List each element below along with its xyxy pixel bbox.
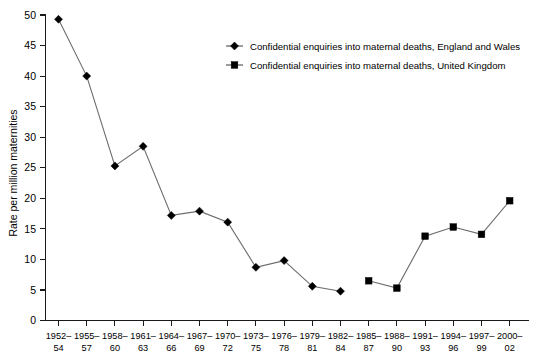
chart-legend: Confidential enquiries into maternal dea… — [226, 41, 520, 71]
y-axis-title: Rate per million maternities — [7, 109, 19, 236]
data-point-diamond — [196, 207, 204, 215]
x-tick-label: 1964–66 — [159, 331, 185, 353]
legend-label: Confidential enquiries into maternal dea… — [250, 60, 505, 71]
legend-label: Confidential enquiries into maternal dea… — [250, 41, 520, 52]
x-tick-label: 1985–87 — [356, 331, 382, 353]
x-tick-label: 1967–69 — [187, 331, 213, 353]
chart-container: Rate per million maternities 05101520253… — [0, 0, 550, 363]
data-series-layer — [55, 15, 514, 295]
legend-entry[interactable]: Confidential enquiries into maternal dea… — [226, 60, 505, 71]
series-1 — [55, 15, 345, 295]
line-chart: Rate per million maternities 05101520253… — [0, 0, 550, 363]
y-tick-label: 15 — [24, 223, 36, 235]
y-tick-label: 40 — [24, 70, 36, 82]
x-tick-label: 1982–84 — [328, 331, 354, 353]
x-tick-label: 1979–81 — [300, 331, 326, 353]
data-point-square — [506, 197, 513, 204]
x-tick-label: 1994–96 — [441, 331, 467, 353]
x-tick-label: 1961–63 — [130, 331, 156, 353]
x-tick-label: 1955–57 — [74, 331, 100, 353]
y-tick-label: 5 — [30, 284, 36, 296]
data-point-diamond — [139, 142, 147, 150]
y-tick-label: 35 — [24, 100, 36, 112]
y-axis-ticks: 05101520253035404550 — [24, 9, 45, 327]
y-tick-label: 30 — [24, 131, 36, 143]
data-point-square — [231, 62, 238, 69]
data-point-square — [450, 224, 457, 231]
x-tick-label: 2000–02 — [497, 331, 523, 353]
y-tick-label: 0 — [30, 314, 36, 326]
x-tick-label: 1973–75 — [243, 331, 269, 353]
data-point-diamond — [83, 72, 91, 80]
data-point-square — [422, 233, 429, 240]
data-point-diamond — [111, 162, 119, 170]
data-point-diamond — [167, 211, 175, 219]
x-tick-label: 1976–78 — [271, 331, 297, 353]
series-line — [369, 201, 510, 288]
x-tick-label: 1997–99 — [469, 331, 495, 353]
data-point-diamond — [224, 218, 232, 226]
y-tick-label: 20 — [24, 192, 36, 204]
x-tick-label: 1958–60 — [102, 331, 128, 353]
x-axis-ticks: 1952–541955–571958–601961–631964–661967–… — [46, 321, 524, 353]
y-tick-label: 10 — [24, 253, 36, 265]
data-point-square — [478, 231, 485, 238]
data-point-diamond — [252, 263, 260, 271]
series-2 — [365, 197, 513, 291]
legend-entry[interactable]: Confidential enquiries into maternal dea… — [226, 41, 520, 52]
x-tick-label: 1991–93 — [412, 331, 438, 353]
x-tick-label: 1952–54 — [46, 331, 72, 353]
data-point-diamond — [231, 42, 239, 50]
data-point-diamond — [337, 287, 345, 295]
data-point-square — [365, 277, 372, 284]
y-tick-label: 25 — [24, 161, 36, 173]
x-tick-label: 1988–90 — [384, 331, 410, 353]
data-point-diamond — [55, 15, 63, 23]
y-tick-label: 45 — [24, 39, 36, 51]
data-point-square — [394, 285, 401, 292]
y-tick-label: 50 — [24, 9, 36, 21]
x-tick-label: 1970–72 — [215, 331, 241, 353]
